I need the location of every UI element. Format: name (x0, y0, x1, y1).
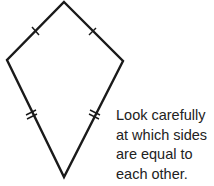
caption-line: at which sides (116, 126, 207, 146)
caption-line: Look carefully (116, 106, 207, 126)
kite-shape (7, 2, 123, 177)
caption-line: are equal to (116, 145, 207, 165)
caption-text: Look carefully at which sides are equal … (116, 106, 207, 184)
caption-line: each other. (116, 165, 207, 185)
